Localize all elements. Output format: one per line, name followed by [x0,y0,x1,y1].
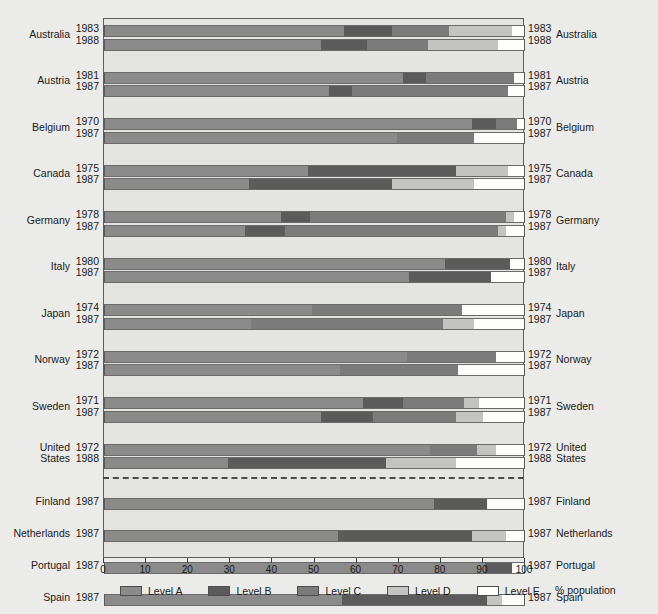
year-labels: 19701987 [76,116,99,139]
bar-segment-level-b [281,211,310,223]
country-name: Australia [29,29,70,40]
stacked-bar [104,397,525,409]
chart-bar-row [104,457,523,469]
bar-segment-level-e [496,351,525,363]
bar-segment-level-d [428,39,497,51]
year-labels: 19721988 [76,442,99,465]
bar-segment-level-e [491,271,525,283]
chart-bar-row [104,304,523,316]
chart-bar-row [104,178,523,190]
axis-tick [440,558,441,563]
year-label: 1987 [528,528,551,540]
bar-segment-level-e [517,118,525,130]
stacked-bar [104,118,525,130]
chart-bar-row [104,351,523,363]
chart-legend: Level ALevel BLevel CLevel DLevel E [120,584,566,598]
year-labels: 19751987 [76,163,99,186]
year-label: 1970 [76,116,99,128]
country-name: Netherlands [556,528,613,540]
chart-bar-row [104,118,523,130]
chart-bar-row [104,25,523,37]
bar-segment-level-b [434,498,487,510]
bar-segment-level-d [449,25,512,37]
year-label: 1971 [76,395,99,407]
bar-segment-level-a [104,178,249,190]
chart-bar-row [104,85,523,97]
bar-segment-level-b [409,271,491,283]
stacked-bar [104,364,525,376]
stacked-bar [104,72,525,84]
year-labels: 1987 [76,560,99,572]
axis-tick-label: 40 [266,564,277,575]
bar-segment-level-a [104,271,409,283]
axis-tick [271,558,272,563]
legend-swatch [208,586,230,596]
year-labels: 1987 [76,496,99,508]
legend-item-level-e[interactable]: Level E [477,585,540,597]
axis-title: % population [555,584,616,596]
axis-tick [398,558,399,563]
year-label: 1987 [528,221,551,233]
bar-segment-level-e [487,498,525,510]
legend-item-level-d[interactable]: Level D [387,585,451,597]
bar-segment-level-c [285,225,498,237]
bar-segment-level-b [445,258,510,270]
country-name: Belgium [556,122,594,134]
chart-bar-row [104,225,523,237]
stacked-bar [104,304,525,316]
axis-tick-label: 30 [224,564,235,575]
stacked-bar [104,258,525,270]
year-label: 1987 [76,81,99,93]
axis-tick [229,558,230,563]
year-label: 1983 [76,23,99,35]
bar-segment-level-d [456,165,509,177]
bar-segment-level-a [104,364,340,376]
stacked-bar [104,530,525,542]
bar-segment-level-e [506,225,525,237]
year-labels: 19801987 [528,256,551,279]
axis-tick-label: 0 [100,564,106,575]
chart-bar-row [104,397,523,409]
year-label: 1978 [76,209,99,221]
bar-segment-level-c [373,411,455,423]
country-name: Italy [51,261,70,272]
axis-tick [103,558,104,563]
bar-segment-level-e [496,444,525,456]
bar-segment-level-d [477,444,496,456]
bar-segment-level-e [498,39,525,51]
bar-segment-level-b [308,165,455,177]
axis-tick [356,558,357,563]
bar-segment-level-a [104,304,312,316]
year-label: 1987 [76,128,99,140]
bar-segment-level-b [321,411,374,423]
axis-tick [145,558,146,563]
country-name: Germany [27,215,70,226]
country-name: Netherlands [13,528,70,539]
chart-bar-row [104,444,523,456]
bar-segment-level-d [392,178,474,190]
bar-segment-level-b [338,530,473,542]
chart-bar-row [104,39,523,51]
legend-label: Level C [325,585,361,597]
axis-tick-label: 60 [350,564,361,575]
stacked-bar [104,457,525,469]
bar-segment-level-a [104,225,245,237]
axis-tick-label: 50 [308,564,319,575]
year-labels: 19811987 [76,70,99,93]
bar-segment-level-a [104,318,251,330]
legend-item-level-a[interactable]: Level A [120,585,182,597]
year-label: 1987 [76,407,99,419]
legend-item-level-c[interactable]: Level C [297,585,361,597]
bar-segment-level-e [510,258,525,270]
section-divider [103,477,524,479]
legend-item-level-b[interactable]: Level B [208,585,271,597]
stacked-bar-chart: 19831988Australia19831988Australia198119… [0,0,658,614]
axis-tick-label: 10 [140,564,151,575]
stacked-bar [104,411,525,423]
year-label: 1987 [76,528,99,540]
bar-segment-level-a [104,25,344,37]
bar-segment-level-a [104,72,403,84]
year-label: 1988 [528,453,551,465]
stacked-bar [104,271,525,283]
bar-segment-level-a [104,411,321,423]
